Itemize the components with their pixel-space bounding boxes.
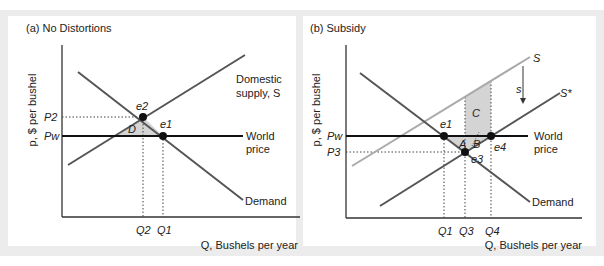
panel-a-title: (a) No Distortions xyxy=(26,22,112,34)
label-e3: e3 xyxy=(471,153,484,165)
price-label-pw: Pw xyxy=(44,130,60,142)
panel-a-y-axis-label: p, $ per bushel xyxy=(26,74,38,147)
world-price-label-b-line1: World xyxy=(534,130,563,142)
label-area-a: A xyxy=(458,138,466,150)
quantity-label-q2: Q2 xyxy=(136,224,151,236)
panel-b-x-axis-label: Q, Bushels per year xyxy=(485,239,583,251)
supply-label-line2: supply, S xyxy=(236,87,280,99)
label-area-b: B xyxy=(473,138,480,150)
price-label-p3: P3 xyxy=(327,146,341,158)
panel-b-title: (b) Subsidy xyxy=(310,22,366,34)
quantity-label-q3: Q3 xyxy=(459,225,475,237)
quantity-label-q1: Q1 xyxy=(157,224,172,236)
panel-b-y-axis-label: p, $ per bushel xyxy=(310,74,322,147)
point-e1-b xyxy=(440,132,448,140)
label-area-d: D xyxy=(128,123,136,135)
panel-b: (b) Subsidy p, $ per bushel s e1 e4 e3 C xyxy=(310,22,582,251)
domestic-supply-curve xyxy=(68,55,245,165)
subsidy-label: s xyxy=(516,83,522,95)
diagram-canvas: (a) No Distortions p, $ per bushel e2 e1… xyxy=(0,0,604,266)
quantity-label-q4: Q4 xyxy=(485,225,500,237)
demand-label: Demand xyxy=(245,195,287,207)
label-area-c: C xyxy=(472,107,480,119)
world-price-label-line1: World xyxy=(246,130,275,142)
panel-a: (a) No Distortions p, $ per bushel e2 e1… xyxy=(26,22,300,251)
demand-label-b: Demand xyxy=(532,196,574,208)
label-e1-b: e1 xyxy=(440,118,452,130)
label-e4: e4 xyxy=(494,141,506,153)
panel-a-x-axis-label: Q, Bushels per year xyxy=(201,239,299,251)
label-s-star: S* xyxy=(560,87,572,99)
label-e2: e2 xyxy=(136,100,148,112)
label-s: S xyxy=(533,52,541,64)
point-e4 xyxy=(487,132,495,140)
subsidy-arrowhead-icon xyxy=(520,98,526,104)
point-e1 xyxy=(159,132,167,140)
point-e2 xyxy=(139,113,147,121)
supply-label-line1: Domestic xyxy=(236,73,282,85)
price-label-p2: P2 xyxy=(44,111,57,123)
label-e1: e1 xyxy=(160,118,172,130)
price-label-pw-b: Pw xyxy=(327,130,343,142)
world-price-label-line2: price xyxy=(246,143,270,155)
quantity-label-q1-b: Q1 xyxy=(438,225,453,237)
world-price-label-b-line2: price xyxy=(534,143,558,155)
